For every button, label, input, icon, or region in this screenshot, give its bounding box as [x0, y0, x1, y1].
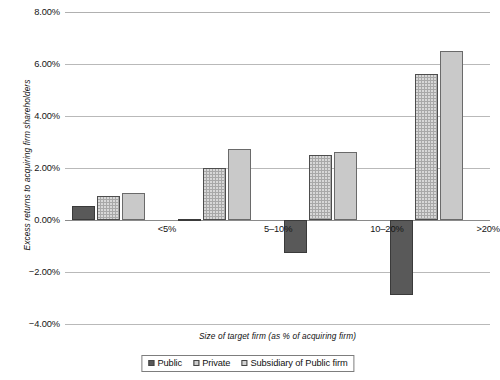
legend-item-subsidiary[interactable]: Subsidiary of Public firm	[241, 358, 347, 368]
x-axis-title: Size of target firm (as % of acquiring f…	[65, 331, 490, 341]
chart-legend: PublicPrivateSubsidiary of Public firm	[141, 355, 354, 372]
y-axis-tick-label: −4.00%	[29, 319, 60, 329]
bar-private-0	[97, 196, 120, 220]
gridline	[65, 324, 490, 325]
bar-subsidiary-2	[334, 152, 357, 220]
y-axis-title: Excess returns to acquiring firm shareho…	[22, 40, 32, 290]
legend-label: Public	[157, 358, 182, 368]
legend-label: Private	[202, 358, 230, 368]
y-axis-tick-label: 0.00%	[34, 215, 60, 225]
bar-private-3	[415, 74, 438, 220]
bar-public-1	[178, 219, 201, 221]
x-axis-category-label: >20%	[476, 224, 500, 234]
bar-subsidiary-1	[228, 149, 251, 220]
legend-item-public[interactable]: Public	[148, 358, 182, 368]
bar-public-0	[72, 206, 95, 220]
x-axis-category-label: 10–20%	[370, 224, 404, 234]
x-axis-category-label: <5%	[158, 224, 177, 234]
bar-subsidiary-3	[440, 51, 463, 220]
legend-item-private[interactable]: Private	[193, 358, 230, 368]
gridline	[65, 220, 490, 221]
y-axis-tick-label: 4.00%	[34, 111, 60, 121]
legend-swatch-subsidiary-icon	[241, 360, 247, 366]
y-axis-tick-label: −2.00%	[29, 267, 60, 277]
plot-area: 8.00%6.00%4.00%2.00%0.00%−2.00%−4.00% <5…	[65, 12, 490, 324]
legend-swatch-public-icon	[148, 360, 154, 366]
x-axis-category-label: 5–10%	[264, 224, 292, 234]
gridline	[65, 64, 490, 65]
bar-subsidiary-0	[122, 193, 145, 220]
legend-label: Subsidiary of Public firm	[250, 358, 347, 368]
gridline	[65, 12, 490, 13]
bar-private-1	[203, 168, 226, 220]
bar-private-2	[309, 155, 332, 220]
legend-swatch-private-icon	[193, 360, 199, 366]
gridline	[65, 272, 490, 273]
y-axis-tick-label: 2.00%	[34, 163, 60, 173]
y-axis-tick-label: 6.00%	[34, 59, 60, 69]
y-axis-tick-label: 8.00%	[34, 7, 60, 17]
